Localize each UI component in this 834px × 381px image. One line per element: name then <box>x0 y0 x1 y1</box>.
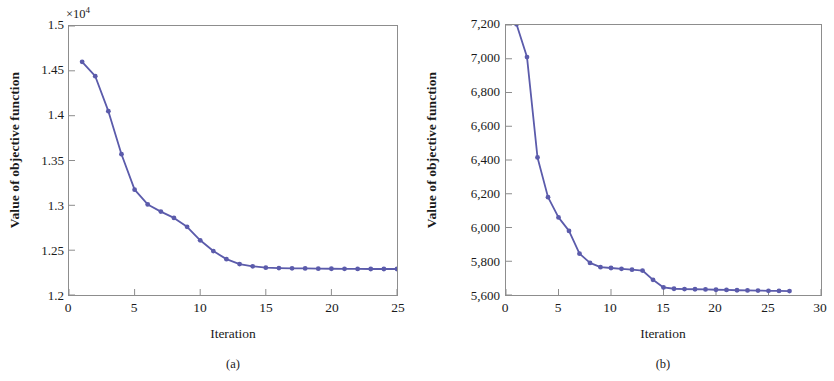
figure-container: Value of objective function ×104 1.2 1.2… <box>0 0 834 381</box>
data-point <box>651 277 656 282</box>
chart-panel-a: Value of objective function ×104 1.2 1.2… <box>0 0 417 381</box>
y-tick-label: 6,200 <box>437 186 500 202</box>
data-point <box>368 267 373 272</box>
tick-marks-b <box>506 25 821 295</box>
data-point <box>630 267 635 272</box>
data-point <box>395 267 397 272</box>
x-tick-label: 25 <box>761 300 775 316</box>
x-tick-label: 0 <box>502 300 509 316</box>
data-markers-a <box>80 59 397 271</box>
data-point <box>158 209 163 214</box>
data-point <box>693 287 698 292</box>
data-point <box>640 268 645 273</box>
x-tick-label: 15 <box>259 300 273 316</box>
y-tick-label: 1.25 <box>24 243 64 259</box>
tick-marks-a <box>69 26 397 295</box>
data-point <box>290 266 295 271</box>
data-point <box>546 195 551 200</box>
x-tick-label: 0 <box>65 300 72 316</box>
y-tick-label: 6,600 <box>437 118 500 134</box>
data-point <box>682 287 687 292</box>
data-point <box>724 288 729 293</box>
data-line-b <box>517 25 790 291</box>
data-point <box>329 266 334 271</box>
data-point <box>132 187 137 192</box>
data-point <box>198 238 203 243</box>
data-line-a <box>82 62 397 269</box>
data-point <box>703 287 708 292</box>
y-tick-label: 7,200 <box>437 16 500 32</box>
y-tick-label: 1.35 <box>24 153 64 169</box>
data-point <box>756 288 761 293</box>
data-point <box>237 262 242 267</box>
data-point <box>535 155 540 160</box>
data-point <box>80 59 85 64</box>
data-point <box>619 266 624 271</box>
data-point <box>263 265 268 270</box>
data-point <box>745 288 750 293</box>
y-tick-label: 1.5 <box>24 17 64 33</box>
x-tick-label: 5 <box>131 300 138 316</box>
data-point <box>185 224 190 229</box>
x-tick-label: 25 <box>391 300 405 316</box>
data-point <box>224 257 229 262</box>
data-point <box>342 266 347 271</box>
data-point <box>525 55 530 60</box>
data-point <box>316 266 321 271</box>
data-point <box>714 287 719 292</box>
y-tick-label: 5,600 <box>437 288 500 304</box>
data-point <box>277 266 282 271</box>
plot-area-a <box>68 25 398 296</box>
x-tick-label: 20 <box>708 300 722 316</box>
plot-area-b <box>505 24 822 296</box>
data-point <box>556 215 561 220</box>
x-tick-label: 5 <box>555 300 562 316</box>
data-point <box>588 261 593 266</box>
y-axis-exponent-a: ×104 <box>66 5 90 22</box>
data-point <box>567 228 572 233</box>
data-point <box>661 285 666 290</box>
x-tick-label: 10 <box>603 300 617 316</box>
y-tick-label: 6,400 <box>437 152 500 168</box>
data-point <box>106 109 111 114</box>
y-tick-label: 6,800 <box>437 84 500 100</box>
data-point <box>777 289 782 294</box>
y-tick-label: 1.3 <box>24 198 64 214</box>
data-point <box>609 266 614 271</box>
data-point <box>303 266 308 271</box>
panel-caption-a: (a) <box>226 357 240 372</box>
y-tick-label: 1.4 <box>24 107 64 123</box>
data-point <box>211 249 216 254</box>
data-point <box>381 267 386 272</box>
data-markers-b <box>514 25 792 294</box>
chart-panel-b: Value of objective function 5,600 5,800 … <box>417 0 834 381</box>
x-tick-label: 30 <box>813 300 827 316</box>
data-point <box>787 289 792 294</box>
x-axis-title-b: Iteration <box>640 326 686 342</box>
data-point <box>735 288 740 293</box>
data-point <box>577 251 582 256</box>
x-tick-label: 20 <box>325 300 339 316</box>
data-point <box>172 215 177 220</box>
data-point <box>514 25 519 27</box>
y-tick-label: 1.2 <box>24 288 64 304</box>
data-point <box>766 288 771 293</box>
data-point <box>598 265 603 270</box>
data-point <box>250 264 255 269</box>
y-tick-label: 6,000 <box>437 220 500 236</box>
x-tick-label: 15 <box>656 300 670 316</box>
data-point <box>93 74 98 79</box>
data-point <box>119 152 124 157</box>
series-canvas-b <box>506 25 821 295</box>
x-tick-label: 10 <box>193 300 207 316</box>
y-tick-label: 1.45 <box>24 62 64 78</box>
data-point <box>672 286 677 291</box>
y-tick-label: 7,000 <box>437 50 500 66</box>
series-canvas-a <box>69 26 397 295</box>
y-tick-label: 5,800 <box>437 254 500 270</box>
data-point <box>145 202 150 207</box>
x-axis-title-a: Iteration <box>210 326 256 342</box>
data-point <box>355 267 360 272</box>
panel-caption-b: (b) <box>656 357 671 372</box>
